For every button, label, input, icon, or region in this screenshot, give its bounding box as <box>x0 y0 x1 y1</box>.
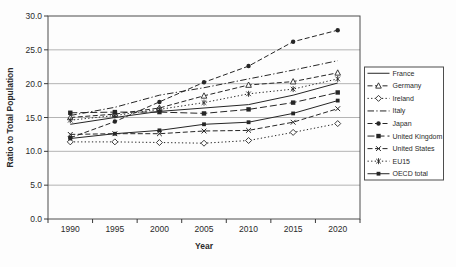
x-tick-label: 1990 <box>61 224 80 234</box>
y-tick-label: 25.0 <box>25 45 42 55</box>
square-marker <box>377 172 381 176</box>
series-united-states <box>68 106 340 137</box>
x-marker <box>335 106 340 111</box>
square-marker <box>376 134 380 138</box>
circle-marker <box>291 40 295 44</box>
legend-label: United States <box>393 145 436 152</box>
diamond-marker <box>156 140 162 146</box>
circle-marker <box>113 119 117 123</box>
plot-area: 0.05.010.015.020.025.030.019901995200020… <box>25 11 360 234</box>
gridlines <box>48 50 360 185</box>
y-axis-title: Ratio to Total Population <box>5 68 15 168</box>
chart-figure: 0.05.010.015.020.025.030.019901995200020… <box>0 0 456 267</box>
circle-marker <box>246 64 250 68</box>
legend-label: EU15 <box>393 158 411 165</box>
x-tick-label: 2005 <box>195 224 214 234</box>
y-tick-label: 10.0 <box>25 146 42 156</box>
asterisk-marker <box>246 91 251 97</box>
series-italy <box>70 61 337 116</box>
y-tick-label: 20.0 <box>25 79 42 89</box>
diamond-marker <box>246 138 252 144</box>
legend-label: OECD total <box>393 170 429 177</box>
circle-marker <box>202 80 206 84</box>
y-tick-label: 0.0 <box>30 214 42 224</box>
square-marker <box>291 112 295 116</box>
legend-label: Germany <box>393 82 422 90</box>
square-marker <box>246 107 250 111</box>
x-axis-title: Year <box>195 241 214 251</box>
diamond-marker <box>335 121 341 127</box>
legend-label: France <box>393 70 415 77</box>
diamond-marker <box>290 129 296 135</box>
square-marker <box>336 99 340 103</box>
x-axis: 1990199520002005201020152020 <box>48 219 360 234</box>
x-tick-label: 2000 <box>150 224 169 234</box>
circle-marker <box>336 28 340 32</box>
x-tick-label: 2015 <box>284 224 303 234</box>
triangle-marker <box>335 70 341 75</box>
asterisk-marker <box>335 76 340 82</box>
square-marker <box>336 90 340 94</box>
legend-label: Japan <box>393 120 412 128</box>
series-line-oecd-total <box>70 101 337 139</box>
y-tick-label: 15.0 <box>25 113 42 123</box>
square-marker <box>291 100 295 104</box>
y-tick-label: 30.0 <box>25 11 42 21</box>
circle-marker <box>157 100 161 104</box>
x-tick-label: 1995 <box>105 224 124 234</box>
square-marker <box>247 120 251 124</box>
diamond-marker <box>112 139 118 145</box>
diamond-marker <box>201 140 207 146</box>
y-axis: 0.05.010.015.020.025.030.0 <box>25 11 48 224</box>
square-marker <box>113 132 117 136</box>
x-tick-label: 2020 <box>328 224 347 234</box>
square-marker <box>202 122 206 126</box>
square-marker <box>68 137 72 141</box>
line-chart: 0.05.010.015.020.025.030.019901995200020… <box>0 0 456 267</box>
legend: FranceGermanyIrelandItalyJapanUnited Kin… <box>365 67 444 180</box>
legend-label: Ireland <box>393 95 415 102</box>
legend-label: United Kingdom <box>393 133 443 141</box>
y-tick-label: 5.0 <box>30 180 42 190</box>
square-marker <box>158 128 162 132</box>
series-line-italy <box>70 61 337 116</box>
circle-marker <box>376 121 380 125</box>
legend-label: Italy <box>393 107 406 115</box>
square-marker <box>68 111 72 115</box>
square-marker <box>202 111 206 115</box>
x-tick-label: 2010 <box>239 224 258 234</box>
